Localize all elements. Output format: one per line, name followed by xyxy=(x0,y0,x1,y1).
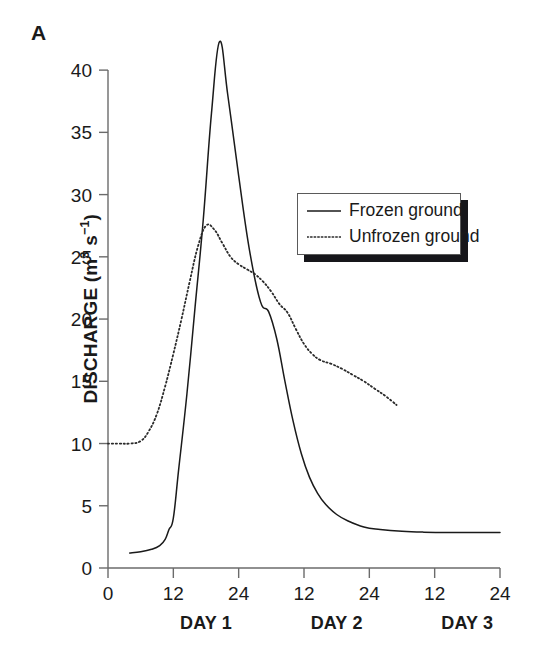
y-axis-tick-label: 0 xyxy=(46,559,92,578)
x-axis-day-label: DAY 2 xyxy=(292,614,382,632)
x-axis-day-label: DAY 1 xyxy=(161,614,251,632)
y-axis-tick-label: 40 xyxy=(46,61,92,80)
y-axis-tick-label: 25 xyxy=(46,248,92,267)
x-axis-tick-label: 24 xyxy=(478,584,522,603)
y-axis-tick-label: 5 xyxy=(46,497,92,516)
y-axis-tick-label: 20 xyxy=(46,310,92,329)
series-line-frozen-ground xyxy=(130,41,500,553)
data-series xyxy=(108,41,500,553)
y-axis-tick-label: 35 xyxy=(46,123,92,142)
legend-entry-frozen: Frozen ground xyxy=(298,198,460,224)
legend-label-unfrozen: Unfrozen ground xyxy=(349,228,479,246)
x-axis-tick-label: 12 xyxy=(151,584,195,603)
x-axis-day-label: DAY 3 xyxy=(422,614,512,632)
legend-label-frozen: Frozen ground xyxy=(349,202,463,220)
x-axis-tick-label: 24 xyxy=(347,584,391,603)
legend-entry-unfrozen: Unfrozen ground xyxy=(298,224,460,250)
legend-line-solid xyxy=(307,205,341,217)
y-axis-tick-label: 30 xyxy=(46,186,92,205)
chart-figure: A DISCHARGE (m3 s−1) 0510152025303540 01… xyxy=(0,0,545,657)
y-axis-tick-label: 15 xyxy=(46,372,92,391)
y-axis-tick-label: 10 xyxy=(46,435,92,454)
x-axis-tick-label: 24 xyxy=(217,584,261,603)
x-axis-tick-label: 12 xyxy=(413,584,457,603)
axes xyxy=(99,70,500,578)
x-axis-tick-label: 0 xyxy=(86,584,130,603)
x-axis-tick-label: 12 xyxy=(282,584,326,603)
legend-line-dotted xyxy=(307,231,341,243)
legend-box: Frozen ground Unfrozen ground xyxy=(297,193,461,255)
